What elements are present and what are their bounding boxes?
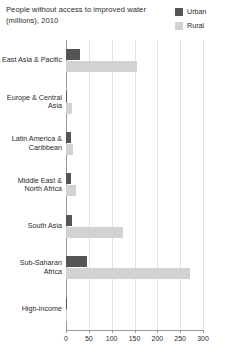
category-label: Latin America & Caribbean [0, 135, 62, 152]
x-axis-tick [180, 330, 181, 333]
bar-group [66, 289, 203, 330]
bar-urban [66, 298, 67, 309]
x-axis-tick-label: 150 [129, 335, 141, 343]
bar-urban [66, 215, 72, 226]
x-axis-tick [89, 330, 90, 333]
bar-urban [66, 256, 87, 267]
legend-item: Urban [175, 6, 221, 17]
legend-swatch-urban [175, 8, 183, 16]
bar-urban [66, 49, 80, 60]
category-label: East Asia & Pacific [0, 56, 62, 65]
bar-group [66, 247, 203, 288]
bar-groups [66, 40, 203, 330]
x-axis-tick-label: 250 [174, 335, 186, 343]
category-label: Sub-Saharan Africa [0, 259, 62, 276]
x-axis: 050100150200250300 [66, 330, 203, 356]
bar-rural [66, 61, 137, 72]
bar-urban [66, 132, 71, 143]
category-label: Europe & Central Asia [0, 94, 62, 111]
x-axis-tick [157, 330, 158, 333]
gridline [203, 40, 204, 330]
bar-rural [66, 144, 73, 155]
plot-area [66, 40, 203, 330]
chart-title: People without access to improved water … [6, 5, 161, 26]
legend-label: Rural [187, 22, 204, 30]
chart-legend: UrbanRural [175, 6, 221, 34]
bar-group [66, 81, 203, 122]
category-label: Middle East & North Africa [0, 177, 62, 194]
category-axis-labels: East Asia & PacificEurope & Central Asia… [0, 40, 62, 330]
x-axis-tick [135, 330, 136, 333]
bar-group [66, 40, 203, 81]
x-axis-tick-label: 100 [106, 335, 118, 343]
x-axis-tick [66, 330, 67, 333]
bar-rural [66, 185, 76, 196]
x-axis-tick-label: 0 [64, 335, 68, 343]
bar-rural [66, 103, 72, 114]
x-axis-tick-label: 50 [85, 335, 93, 343]
chart-container: People without access to improved water … [0, 0, 225, 361]
x-axis-tick [112, 330, 113, 333]
bar-rural [66, 268, 190, 279]
legend-swatch-rural [175, 22, 183, 30]
bar-group [66, 206, 203, 247]
bar-rural [66, 310, 67, 321]
category-label: South Asia [0, 222, 62, 231]
legend-item: Rural [175, 20, 221, 31]
x-axis-tick-label: 200 [151, 335, 163, 343]
bar-group [66, 123, 203, 164]
legend-label: Urban [187, 8, 207, 16]
x-axis-tick-label: 300 [197, 335, 209, 343]
bar-group [66, 164, 203, 205]
bar-urban [66, 91, 67, 102]
bar-rural [66, 227, 123, 238]
bar-urban [66, 173, 71, 184]
category-label: High-income [0, 305, 62, 314]
x-axis-tick [203, 330, 204, 333]
